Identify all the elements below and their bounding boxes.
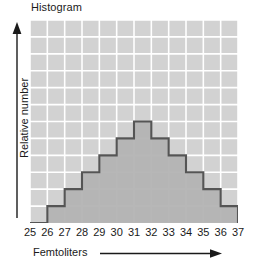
y-axis: Relative number: [6, 20, 26, 223]
y-axis-label: Relative number: [18, 28, 30, 208]
x-tick-label: 37: [226, 226, 250, 238]
chart-title: Histogram: [31, 1, 82, 13]
x-axis-label: Femtoliters: [33, 246, 87, 258]
arrow-right-icon: [98, 246, 224, 260]
plot-area: [30, 20, 238, 223]
histogram-figure: Histogram Relative number 25262728293031…: [0, 0, 254, 266]
histogram-bars: [30, 20, 238, 223]
x-axis-tick-labels: 25262728293031323334353637: [30, 226, 238, 240]
